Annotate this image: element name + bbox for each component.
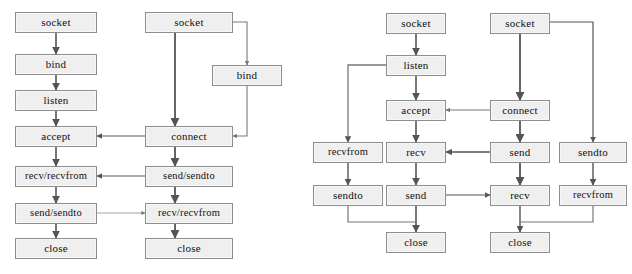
node-left-server-listen[interactable]: listen [15, 90, 97, 111]
node-right-server-listen[interactable]: listen [386, 55, 446, 76]
node-right-udpclient-recvfrom[interactable]: recvfrom [559, 185, 627, 206]
node-left-client-send[interactable]: send/sendto [145, 166, 233, 187]
edge-r-csocket-sendto [550, 22, 593, 142]
node-right-server-send[interactable]: send [386, 185, 446, 206]
node-left-server-bind[interactable]: bind [15, 54, 97, 75]
diagram-canvas: socket bind listen accept recv/recvfrom … [0, 0, 632, 274]
edge-r-recvfrom-cclose [520, 206, 593, 222]
node-left-server-recv[interactable]: recv/recvfrom [15, 166, 97, 187]
node-right-udpclient-sendto[interactable]: sendto [559, 142, 627, 163]
edge-r-sendto-close [348, 206, 416, 222]
node-right-client-connect[interactable]: connect [490, 100, 550, 121]
edge-client-bind-connect [233, 86, 247, 136]
node-right-server-close[interactable]: close [386, 232, 446, 253]
node-right-server-recv[interactable]: recv [386, 142, 446, 163]
node-right-client-socket[interactable]: socket [490, 13, 550, 34]
node-right-udpserver-recvfrom[interactable]: recvfrom [313, 142, 383, 163]
node-right-client-recv[interactable]: recv [490, 185, 550, 206]
node-right-server-accept[interactable]: accept [386, 100, 446, 121]
right-diagram-edges [348, 22, 593, 232]
node-left-server-send[interactable]: send/sendto [15, 203, 97, 224]
edge-r-listen-recvfrom [348, 65, 386, 142]
node-left-server-close[interactable]: close [15, 238, 97, 259]
node-right-client-send[interactable]: send [490, 142, 550, 163]
node-right-server-socket[interactable]: socket [386, 13, 446, 34]
node-left-server-accept[interactable]: accept [15, 126, 97, 147]
edge-client-socket-bind [233, 22, 247, 65]
node-left-client-connect[interactable]: connect [145, 126, 233, 147]
node-left-client-bind[interactable]: bind [212, 65, 282, 86]
node-left-server-socket[interactable]: socket [15, 12, 97, 33]
node-right-udpserver-sendto[interactable]: sendto [313, 185, 383, 206]
node-left-client-close[interactable]: close [145, 238, 233, 259]
node-left-client-socket[interactable]: socket [145, 12, 233, 33]
node-left-client-recv[interactable]: recv/recvfrom [145, 203, 233, 224]
node-right-client-close[interactable]: close [490, 232, 550, 253]
